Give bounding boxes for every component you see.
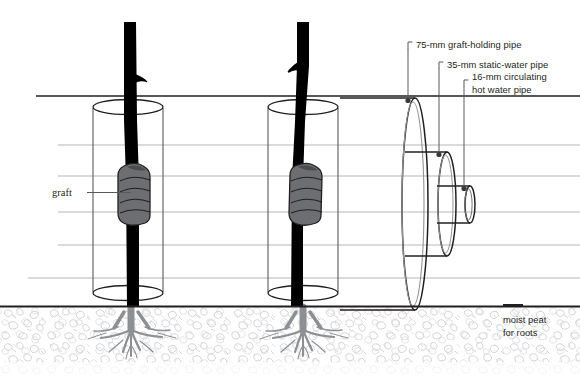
graft-label: graft [52, 187, 72, 198]
diagram-canvas: 75-mm graft-holding pipe 35-mm static-wa… [0, 0, 580, 382]
graft-wrap-body-right [289, 163, 322, 225]
pipe-35mm-static-water [405, 152, 456, 256]
graft-wrap-right [289, 163, 322, 225]
callout-16mm[interactable]: 16-mm circulating hot water pipe [461, 71, 546, 191]
peat-fade [0, 362, 580, 382]
peat-label-line2: for roots [503, 327, 538, 338]
pipe-16-inner-rim [465, 189, 472, 220]
pipe-75-inner-rim [402, 102, 424, 306]
graft-wrap-body-left [118, 163, 150, 225]
peat-texture-b [0, 307, 580, 369]
callout-16-label-line2: hot water pipe [472, 84, 532, 95]
peat-label-line1: moist peat [503, 314, 547, 325]
pipe-35-inner-rim [438, 155, 453, 253]
callout-35-dot-icon [436, 152, 441, 157]
callout-35-label: 35-mm static-water pipe [447, 59, 548, 70]
callout-16-label-line1: 16-mm circulating [472, 71, 547, 82]
callout-75-dot-icon [405, 98, 410, 103]
callout-75-bracket-icon [408, 42, 412, 48]
callout-75-label: 75-mm graft-holding pipe [416, 39, 521, 50]
callout-16-bracket-icon [464, 80, 468, 86]
callout-35-bracket-icon [439, 62, 443, 68]
graft-wrap-left [118, 163, 150, 225]
callout-16-dot-icon [461, 186, 466, 191]
graft-pipe-diagram: 75-mm graft-holding pipe 35-mm static-wa… [0, 0, 580, 382]
